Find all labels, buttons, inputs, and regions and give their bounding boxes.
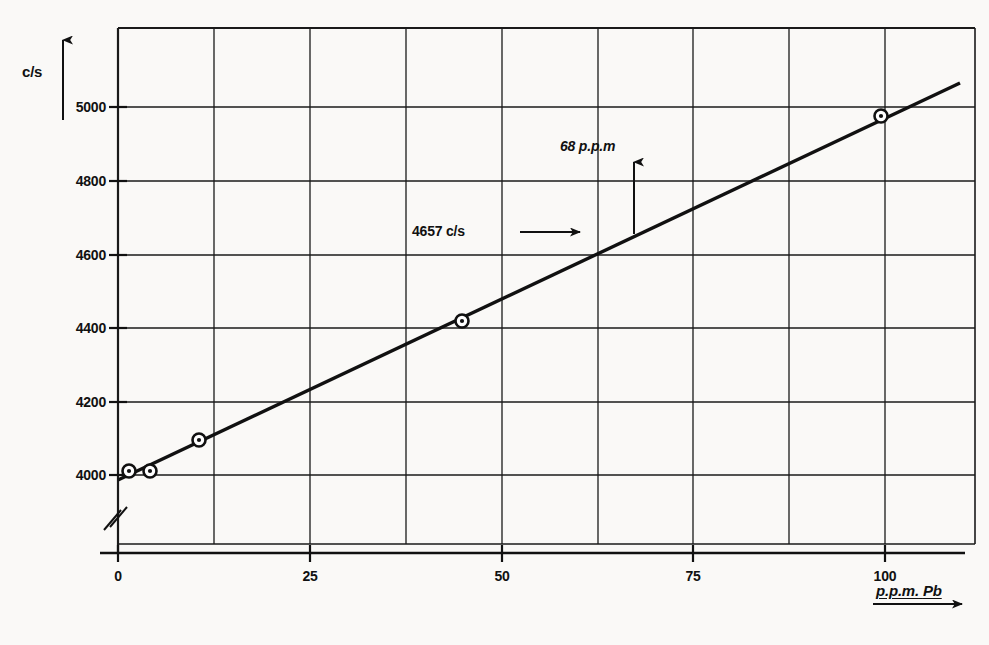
x-tick-label-25: 25 xyxy=(302,568,317,584)
data-point xyxy=(123,465,136,478)
y-tick-label-4600: 4600 xyxy=(62,247,106,263)
y-tick-label-4000: 4000 xyxy=(62,467,106,483)
data-point xyxy=(193,434,206,447)
cps-callout-label: 4657 c/s xyxy=(412,223,465,239)
chart-figure: c/s p.p.m. Pb 5000 4800 4600 4400 4200 4… xyxy=(0,0,989,645)
data-point xyxy=(456,315,469,328)
y-tick-label-4800: 4800 xyxy=(62,173,106,189)
x-axis-title-element: Pb xyxy=(923,582,942,599)
x-axis-title-unit: p.p.m. xyxy=(876,582,919,599)
x-tick-label-50: 50 xyxy=(494,568,509,584)
ppm-callout-label: 68 p.p.m xyxy=(560,138,615,154)
x-axis-title: p.p.m. Pb xyxy=(876,582,942,599)
y-axis-title: c/s xyxy=(22,63,42,80)
data-point xyxy=(144,465,157,478)
y-tick-label-5000: 5000 xyxy=(62,99,106,115)
data-point xyxy=(875,110,888,123)
fit-line xyxy=(118,83,960,480)
x-tick-label-75: 75 xyxy=(685,568,700,584)
x-tick-label-0: 0 xyxy=(114,568,122,584)
axis-break-mark xyxy=(104,507,127,530)
y-tick-label-4200: 4200 xyxy=(62,394,106,410)
x-tick-label-100: 100 xyxy=(874,568,897,584)
calibration-scatter-chart xyxy=(0,0,989,645)
y-tick-label-4400: 4400 xyxy=(62,320,106,336)
plot-grid xyxy=(118,28,975,553)
